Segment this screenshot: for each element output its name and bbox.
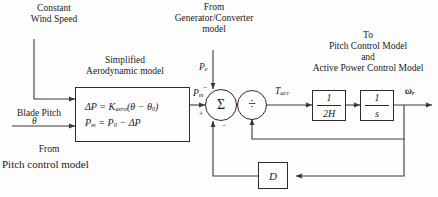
tacc-subscript: acc (280, 89, 289, 96)
aero-equation-2: Pm = P0 − ΔP (85, 117, 189, 128)
eq1-expression: (θ − θ (127, 101, 152, 112)
integrator-transfer-function: 1 s (361, 91, 393, 120)
eq2-lhs-subscript: m (91, 121, 96, 128)
from-gen-line2: Generator/Converter (160, 13, 268, 24)
integrator-fraction-bar (365, 105, 388, 106)
omega-r-signal-label: ωr (405, 86, 414, 97)
eq1-close-paren: ) (155, 101, 158, 112)
tacc-signal-label: Tacc (275, 86, 289, 97)
inertia-block[interactable]: 1 2H (312, 90, 346, 121)
control-block-diagram: Constant Wind Speed Simplified Aerodynam… (0, 0, 438, 197)
simplified-aerodynamic-model-block[interactable]: ΔP = Kaero(θ − θ0) Pm = P0 − ΔP (75, 87, 190, 142)
from-generator-converter-label: From Generator/Converter model (160, 2, 268, 35)
eq2-rhs-subscript: 0 (114, 121, 117, 128)
pe-subscript: e (205, 65, 208, 72)
aero-equation-1: ΔP = Kaero(θ − θ0) (85, 101, 189, 112)
wire-damping-to-sum (213, 121, 258, 176)
simplified-line1: Simplified (66, 55, 184, 66)
to-pitch-and-active-power-label: To Pitch Control Model and Active Power … (300, 30, 436, 74)
simplified-line2: Aerodynamic model (66, 66, 184, 77)
divide-icon: ÷ (248, 98, 256, 112)
to-line4: Active Power Control Model (300, 63, 436, 74)
wind-label-line2: Wind Speed (6, 14, 102, 25)
blade-pitch-label: Blade Pitch (8, 108, 70, 119)
pm-subscript: m (199, 91, 204, 98)
theta-signal-label: θ (32, 116, 37, 127)
inertia-numerator: 1 (327, 93, 332, 104)
wire-feedback-to-damping (296, 139, 404, 176)
constant-wind-speed-label: Constant Wind Speed (6, 3, 102, 25)
omega-symbol: ω (405, 86, 412, 96)
eq1-lhs: ΔP (85, 101, 97, 112)
aero-equations: ΔP = Kaero(θ − θ0) Pm = P0 − ΔP (76, 88, 189, 141)
from-gen-line1: From (160, 2, 268, 13)
inertia-transfer-function: 1 2H (313, 91, 345, 120)
eq2-equals: = (98, 117, 105, 128)
inertia-fraction-bar (317, 105, 340, 106)
summing-junction[interactable]: Σ (205, 89, 237, 121)
from-gen-line3: model (160, 24, 268, 35)
simplified-aerodynamic-model-label: Simplified Aerodynamic model (66, 55, 184, 77)
summing-sign-left: + (199, 110, 203, 117)
integrator-denominator: s (375, 108, 379, 119)
divider-junction[interactable]: ÷ (237, 90, 267, 120)
summing-sign-top: − (203, 84, 207, 91)
pe-signal-label: Pe (199, 62, 208, 73)
eq1-equals: = (99, 101, 106, 112)
damping-label: D (259, 163, 287, 188)
pm-signal-label: Pm (193, 88, 204, 99)
from-pitch-control-line1: From (26, 144, 72, 155)
wind-label-line1: Constant (6, 3, 102, 14)
damping-block[interactable]: D (258, 162, 288, 189)
to-line3: and (300, 52, 436, 63)
sigma-icon: Σ (217, 98, 225, 112)
inertia-denominator: 2H (323, 108, 335, 119)
summing-sign-bottom: − (222, 122, 226, 129)
to-line2: Pitch Control Model (300, 41, 436, 52)
eq2-tail: − ΔP (119, 117, 140, 128)
integrator-numerator: 1 (375, 93, 380, 104)
from-pitch-control-line2: Pitch control model (2, 158, 120, 171)
eq1-gain-subscript: aero (115, 105, 127, 112)
integrator-block[interactable]: 1 s (360, 90, 394, 121)
to-line1: To (300, 30, 436, 41)
omega-subscript: r (412, 89, 415, 96)
